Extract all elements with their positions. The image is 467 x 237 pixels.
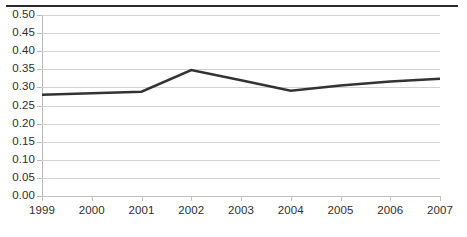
series-line-primary [42,70,440,95]
series-line-group [0,0,467,237]
chart-figure: 0.500.450.400.350.300.250.200.150.100.05… [0,0,467,237]
